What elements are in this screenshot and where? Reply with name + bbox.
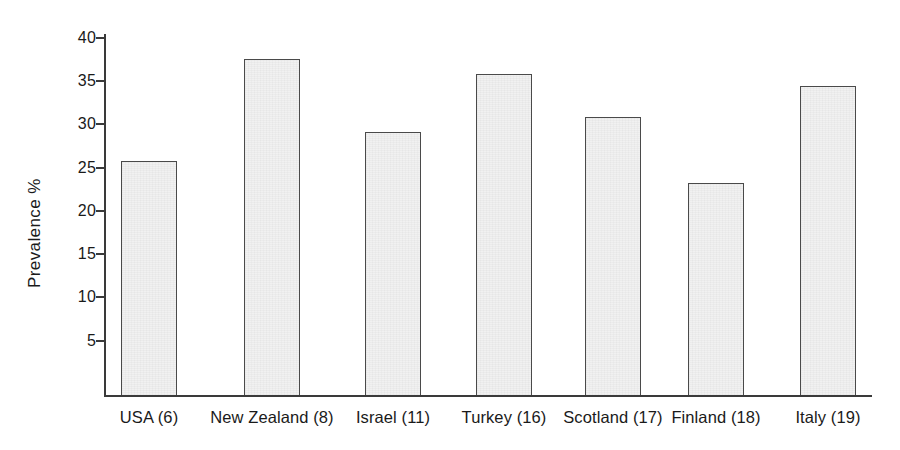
- y-axis-title: Prevalence %: [26, 28, 43, 288]
- y-axis-tick-label: 40: [60, 30, 96, 46]
- bar-chart: Prevalence % 510152025303540 USA (6)New …: [0, 0, 900, 450]
- y-axis-tick: [96, 37, 105, 39]
- bar: [476, 74, 532, 395]
- y-axis-tick: [96, 80, 105, 82]
- y-axis-tick-label: 15: [60, 246, 96, 262]
- x-axis-line: [104, 395, 872, 397]
- bar: [365, 132, 421, 395]
- y-axis-tick-label: 30: [60, 116, 96, 132]
- y-axis-tick: [96, 123, 105, 125]
- y-axis-tick-label: 20: [60, 203, 96, 219]
- y-axis-tick: [96, 167, 105, 169]
- bar: [800, 86, 856, 395]
- x-axis-category-label: Italy (19): [738, 407, 900, 427]
- y-axis-tick: [96, 296, 105, 298]
- y-axis-tick: [96, 210, 105, 212]
- bar: [121, 161, 177, 395]
- y-axis-tick: [96, 253, 105, 255]
- y-axis-tick-label: 35: [60, 73, 96, 89]
- bar: [244, 59, 300, 395]
- y-axis-tick: [96, 340, 105, 342]
- bar: [688, 183, 744, 395]
- bar: [585, 117, 641, 395]
- y-axis-tick-label: 10: [60, 289, 96, 305]
- y-axis-tick-label: 25: [60, 160, 96, 176]
- y-axis-line: [104, 34, 106, 397]
- y-axis-tick-label: 5: [60, 333, 96, 349]
